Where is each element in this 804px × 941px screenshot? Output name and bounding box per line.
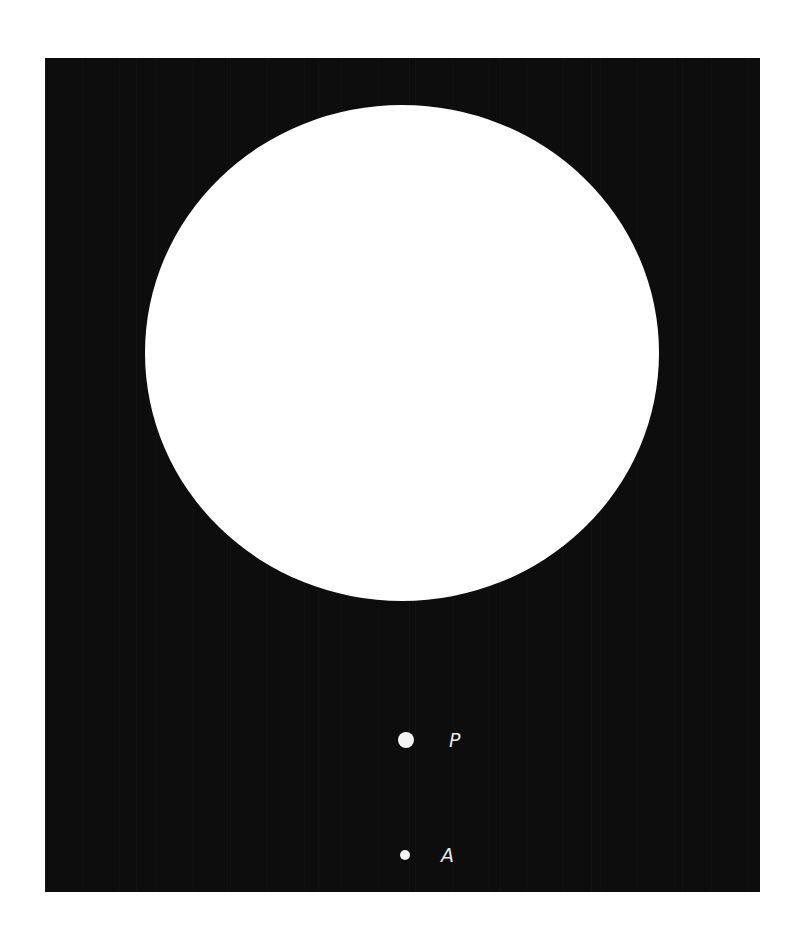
point-p-dot: [398, 732, 414, 748]
point-a-label: A: [441, 846, 454, 865]
point-p-label: P: [449, 731, 460, 750]
point-a-dot: [400, 850, 410, 860]
white-disc: [145, 105, 659, 601]
black-plate: P A: [45, 58, 760, 892]
